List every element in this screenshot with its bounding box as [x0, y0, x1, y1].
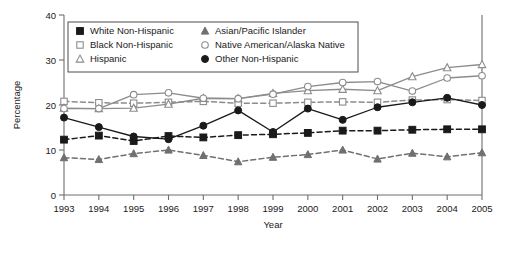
marker-other-non-hispanic — [270, 129, 277, 136]
legend-label-asian-pacific-islander: Asian/Pacific Islander — [215, 25, 306, 36]
x-tick-label: 1999 — [262, 203, 283, 214]
marker-native-american-alaska-native — [479, 72, 486, 79]
marker-other-non-hispanic — [444, 94, 451, 101]
marker-native-american-alaska-native — [339, 79, 346, 86]
legend-marker-black-non-hispanic — [77, 42, 83, 48]
x-tick-label: 2000 — [297, 203, 318, 214]
marker-asian-pacific-islander — [339, 146, 346, 153]
chart-canvas: 0102030401993199419951996199719981999200… — [0, 0, 510, 255]
marker-white-non-hispanic — [61, 136, 68, 143]
marker-asian-pacific-islander — [200, 152, 207, 159]
marker-white-non-hispanic — [479, 126, 486, 133]
marker-white-non-hispanic — [374, 127, 381, 134]
marker-native-american-alaska-native — [305, 83, 312, 90]
marker-white-non-hispanic — [444, 126, 451, 133]
x-tick-label: 1995 — [123, 203, 144, 214]
marker-other-non-hispanic — [409, 99, 416, 106]
x-tick-label: 2001 — [332, 203, 353, 214]
marker-other-non-hispanic — [235, 107, 242, 114]
marker-other-non-hispanic — [304, 105, 311, 112]
marker-black-non-hispanic — [339, 99, 345, 105]
marker-native-american-alaska-native — [374, 78, 381, 85]
marker-native-american-alaska-native — [235, 95, 242, 102]
line-chart: 0102030401993199419951996199719981999200… — [0, 0, 510, 255]
marker-native-american-alaska-native — [444, 75, 451, 82]
marker-white-non-hispanic — [339, 127, 346, 134]
y-tick-label: 20 — [45, 100, 56, 111]
marker-native-american-alaska-native — [270, 91, 277, 98]
x-tick-label: 2004 — [437, 203, 458, 214]
legend-marker-white-non-hispanic — [77, 28, 84, 35]
marker-black-non-hispanic — [305, 99, 311, 105]
marker-asian-pacific-islander — [130, 150, 137, 157]
legend-marker-native-american-alaska-native — [202, 42, 209, 49]
marker-other-non-hispanic — [61, 114, 68, 121]
legend-label-other-non-hispanic: Other Non-Hispanic — [215, 53, 299, 64]
y-axis-title: Percentage — [11, 81, 22, 130]
marker-native-american-alaska-native — [61, 105, 68, 112]
x-axis-title: Year — [263, 219, 282, 230]
marker-native-american-alaska-native — [409, 88, 416, 95]
marker-native-american-alaska-native — [200, 95, 207, 102]
marker-white-non-hispanic — [304, 130, 311, 137]
marker-white-non-hispanic — [95, 132, 102, 139]
marker-other-non-hispanic — [374, 104, 381, 111]
y-tick-label: 40 — [45, 10, 56, 21]
x-tick-label: 1993 — [53, 203, 74, 214]
marker-white-non-hispanic — [409, 126, 416, 133]
marker-other-non-hispanic — [479, 102, 486, 109]
marker-white-non-hispanic — [200, 134, 207, 141]
marker-other-non-hispanic — [339, 116, 346, 123]
y-tick-label: 30 — [45, 55, 56, 66]
marker-other-non-hispanic — [165, 136, 172, 143]
marker-black-non-hispanic — [270, 100, 276, 106]
legend-label-white-non-hispanic: White Non-Hispanic — [90, 25, 174, 36]
x-tick-label: 1997 — [193, 203, 214, 214]
legend-label-native-american-alaska-native: Native American/Alaska Native — [215, 39, 345, 50]
marker-white-non-hispanic — [235, 132, 242, 139]
x-tick-label: 2005 — [471, 203, 492, 214]
x-tick-label: 1994 — [88, 203, 109, 214]
x-tick-label: 1998 — [228, 203, 249, 214]
y-tick-label: 0 — [51, 190, 56, 201]
legend-label-hispanic: Hispanic — [90, 53, 127, 64]
x-tick-label: 1996 — [158, 203, 179, 214]
legend-label-black-non-hispanic: Black Non-Hispanic — [90, 39, 173, 50]
y-tick-label: 10 — [45, 145, 56, 156]
x-tick-label: 2002 — [367, 203, 388, 214]
marker-native-american-alaska-native — [165, 90, 172, 97]
marker-other-non-hispanic — [200, 122, 207, 129]
x-tick-label: 2003 — [402, 203, 423, 214]
legend-marker-other-non-hispanic — [202, 56, 209, 63]
marker-native-american-alaska-native — [96, 105, 103, 112]
marker-native-american-alaska-native — [130, 91, 137, 98]
marker-other-non-hispanic — [95, 124, 102, 131]
marker-other-non-hispanic — [130, 133, 137, 140]
